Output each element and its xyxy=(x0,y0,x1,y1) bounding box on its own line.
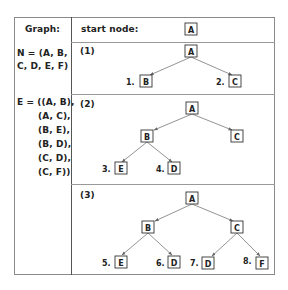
svg-text:B: B xyxy=(145,224,151,233)
tree-diagrams: A A B C 1. 2. A B C E D 3. 4. A B C E D xyxy=(0,0,288,290)
node-b: B xyxy=(142,221,154,233)
panel-2-tree: A B C E D 3. 4. xyxy=(102,102,243,174)
order-1: 1. xyxy=(126,78,135,87)
node-e: E xyxy=(115,256,127,268)
start-node: A xyxy=(185,23,197,35)
order-8: 8. xyxy=(243,257,252,266)
node-d: D xyxy=(168,162,180,174)
svg-text:B: B xyxy=(144,133,150,142)
order-2: 2. xyxy=(216,78,225,87)
svg-text:E: E xyxy=(118,165,123,174)
node-c: C xyxy=(231,221,243,233)
svg-text:C: C xyxy=(234,224,240,233)
svg-text:E: E xyxy=(118,259,123,268)
panel-3-tree: A B C E D D F 5. 6. 7. 8. xyxy=(102,192,268,269)
node-d: D xyxy=(168,256,180,268)
svg-text:A: A xyxy=(189,105,196,114)
order-4: 4. xyxy=(156,165,165,174)
node-a: A xyxy=(185,45,197,57)
svg-text:F: F xyxy=(259,260,264,269)
node-e: E xyxy=(115,162,127,174)
node-c: C xyxy=(229,75,241,87)
panel-1-tree: A B C 1. 2. xyxy=(126,45,241,87)
node-c: C xyxy=(231,130,243,142)
svg-text:D: D xyxy=(171,165,178,174)
svg-text:A: A xyxy=(188,26,195,35)
svg-text:D: D xyxy=(171,259,178,268)
order-3: 3. xyxy=(102,165,111,174)
node-b: B xyxy=(140,75,152,87)
node-b: B xyxy=(141,130,153,142)
node-a: A xyxy=(186,102,198,114)
svg-text:C: C xyxy=(234,133,240,142)
svg-text:B: B xyxy=(143,78,149,87)
order-7: 7. xyxy=(190,259,199,268)
svg-text:A: A xyxy=(189,195,196,204)
order-5: 5. xyxy=(102,259,111,268)
order-6: 6. xyxy=(156,259,165,268)
node-a: A xyxy=(186,192,198,204)
node-f: F xyxy=(256,257,268,269)
svg-text:A: A xyxy=(188,48,195,57)
node-d: D xyxy=(202,257,214,269)
svg-text:C: C xyxy=(232,78,238,87)
svg-text:D: D xyxy=(205,260,212,269)
